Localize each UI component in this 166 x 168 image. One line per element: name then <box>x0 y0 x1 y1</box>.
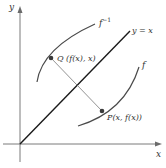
f-inverse-label: f−1 <box>98 16 111 28</box>
point-q-label: Q (f(x), x) <box>57 54 96 63</box>
y-axis-arrow-icon <box>18 6 23 13</box>
f-label: f <box>141 60 147 70</box>
point-p-label: P(x, f(x)) <box>106 113 142 122</box>
point-p <box>100 109 105 114</box>
identity-line <box>20 31 130 144</box>
point-q <box>49 56 54 61</box>
identity-line-label: y = x <box>131 26 153 35</box>
x-axis-arrow-icon <box>155 142 162 147</box>
x-axis-label: x <box>156 149 161 159</box>
f-inverse-label-sup: −1 <box>102 16 111 23</box>
connector-segment <box>51 58 102 111</box>
inverse-function-diagram: x y y = x f−1 f Q (f(x), x) P(x, f(x)) <box>0 0 166 168</box>
y-axis-label: y <box>8 2 15 12</box>
